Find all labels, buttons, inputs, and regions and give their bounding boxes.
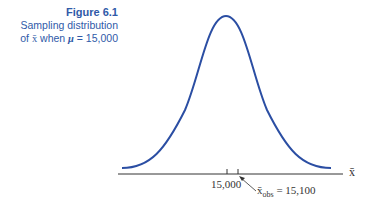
- observed-label: x̄obs = 15,100: [257, 184, 316, 199]
- sampling-distribution-chart: [0, 0, 366, 209]
- tick-label-mean: 15,000: [211, 178, 241, 190]
- axis-label: x̄: [349, 165, 355, 180]
- normal-density-curve: [122, 16, 331, 168]
- observed-arrow: [241, 178, 256, 191]
